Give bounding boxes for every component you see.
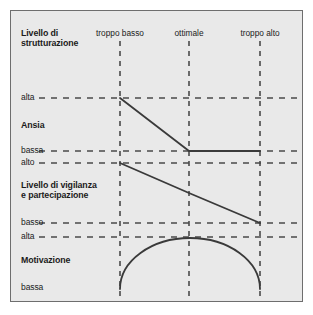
vertical-gridlines — [120, 41, 260, 299]
axis-label-motivazione-bassa: bassa — [21, 283, 43, 293]
panel-title-motivazione: Motivazione — [21, 256, 70, 266]
panel-title-vigilanza-line2: e partecipazione — [21, 191, 88, 201]
column-header-troppo-basso: troppo basso — [96, 29, 144, 38]
column-header-troppo-alto: troppo alto — [240, 29, 279, 38]
data-curves — [120, 98, 260, 289]
panel-title-strutturazione-line2: strutturazione — [21, 39, 78, 49]
axis-label-motivazione-alta: alta — [21, 232, 34, 242]
axis-label-ansia-bassa: bassa — [21, 146, 43, 156]
panel-title-ansia: Ansia — [21, 121, 44, 131]
axis-label-vigilanza-alto: alto — [21, 158, 34, 168]
axis-label-ansia-alta: alta — [21, 93, 34, 103]
column-header-ottimale: ottimale — [174, 29, 203, 38]
axis-label-vigilanza-basso: basso — [21, 218, 43, 228]
figure-frame: troppo basso ottimale troppo alto Livell… — [10, 10, 303, 302]
horizontal-gridlines — [39, 98, 297, 237]
